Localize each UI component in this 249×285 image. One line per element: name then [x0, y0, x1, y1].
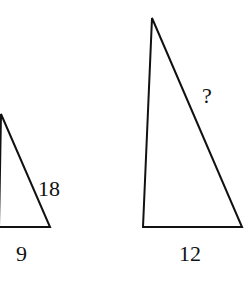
small-triangle	[0, 114, 50, 227]
small-triangle-base-label: 9	[16, 243, 27, 265]
large-triangle-hypotenuse-label: ?	[202, 85, 212, 107]
triangles-canvas	[0, 0, 249, 285]
large-triangle	[143, 18, 242, 227]
similar-triangles-diagram: 18 9 ? 12	[0, 0, 249, 285]
small-triangle-hypotenuse-label: 18	[38, 178, 60, 200]
large-triangle-base-label: 12	[179, 243, 201, 265]
